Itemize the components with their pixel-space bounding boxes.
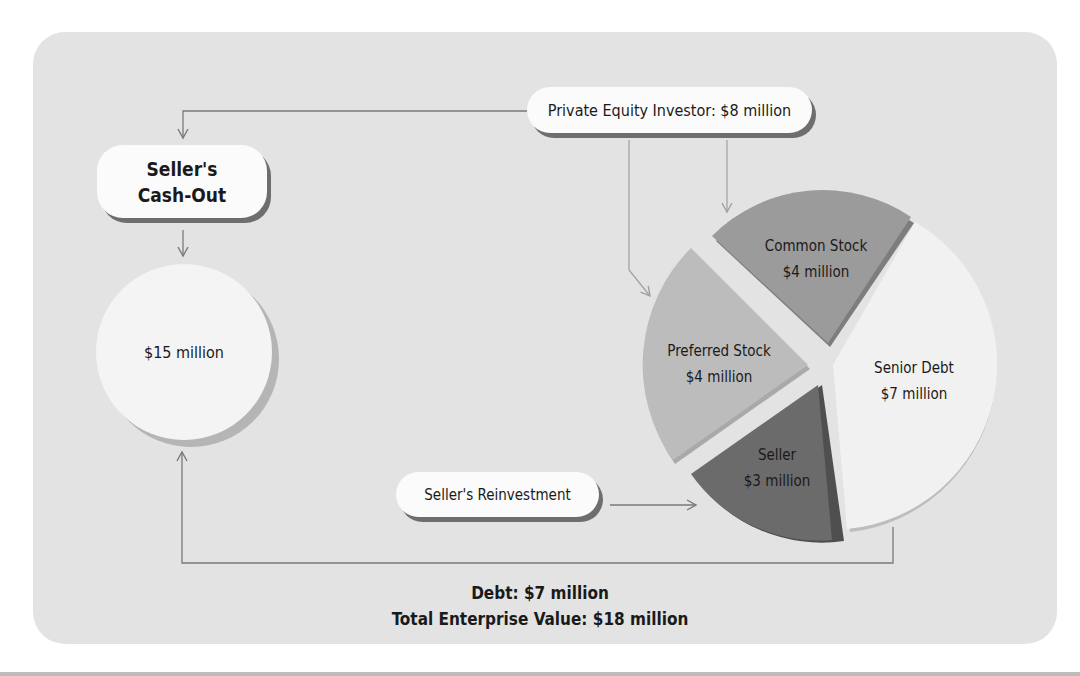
slice-name: Common Stock bbox=[765, 233, 867, 259]
slice-label-preferred-stock: Preferred Stock $4 million bbox=[667, 338, 770, 390]
slice-name: Preferred Stock bbox=[667, 338, 770, 364]
slice-name: Senior Debt bbox=[874, 355, 954, 381]
private-equity-label: Private Equity Investor: $8 million bbox=[548, 101, 791, 120]
slice-label-seller: Seller $3 million bbox=[744, 442, 810, 494]
cash-out-amount: $15 million bbox=[144, 343, 224, 362]
slice-label-common-stock: Common Stock $4 million bbox=[765, 233, 867, 285]
slice-value: $7 million bbox=[874, 381, 954, 407]
sellers-cash-out-box: Seller's Cash-Out bbox=[97, 145, 267, 218]
private-equity-investor-box: Private Equity Investor: $8 million bbox=[527, 87, 812, 133]
slice-label-senior-debt: Senior Debt $7 million bbox=[874, 355, 954, 407]
slice-name: Seller bbox=[744, 442, 810, 468]
cash-out-amount-circle: $15 million bbox=[96, 264, 272, 440]
slice-value: $3 million bbox=[744, 468, 810, 494]
slice-value: $4 million bbox=[667, 364, 770, 390]
connector-pe-to-cashout bbox=[183, 111, 527, 138]
debt-summary: Debt: $7 million bbox=[0, 583, 1080, 603]
reinvestment-label: Seller's Reinvestment bbox=[424, 486, 570, 504]
sellers-reinvestment-box: Seller's Reinvestment bbox=[396, 472, 599, 517]
total-enterprise-value: Total Enterprise Value: $18 million bbox=[0, 609, 1080, 629]
slice-value: $4 million bbox=[765, 259, 867, 285]
cash-out-label-line1: Seller's bbox=[146, 156, 217, 182]
page-bottom-rule bbox=[0, 672, 1080, 676]
connector-pe-to-preferred bbox=[629, 140, 650, 296]
cash-out-label-line2: Cash-Out bbox=[138, 182, 226, 208]
